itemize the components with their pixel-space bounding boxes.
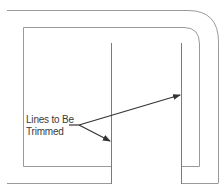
wall-diagram xyxy=(0,0,224,195)
leader-arrow-right xyxy=(79,95,180,125)
outer-wall-top-line xyxy=(7,11,219,184)
leader-arrow-left xyxy=(79,125,110,141)
annotation-label-line2: Trimmed xyxy=(26,125,64,138)
